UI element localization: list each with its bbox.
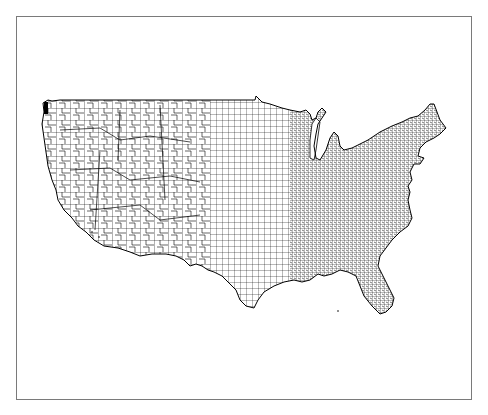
- us-county-map: [0, 0, 488, 415]
- county-fill: [30, 90, 460, 330]
- island: [337, 310, 339, 312]
- central-counties: [210, 90, 290, 320]
- puget-sound-detail: [44, 102, 48, 114]
- island: [91, 231, 93, 233]
- island: [98, 236, 100, 238]
- west-counties: [30, 90, 210, 320]
